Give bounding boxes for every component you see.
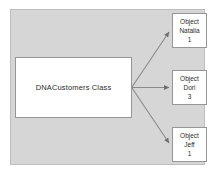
object-id-label: 1 — [188, 149, 192, 158]
class-node[interactable]: DNACustomers Class — [15, 57, 132, 118]
object-node-jeff[interactable]: Object Jeff 1 — [172, 127, 207, 162]
object-node-dori[interactable]: Object Dori 3 — [172, 70, 207, 105]
object-kind-label: Object — [180, 17, 199, 26]
object-name-label: Dori — [184, 83, 196, 92]
object-node-natalia[interactable]: Object Natalia 1 — [172, 13, 207, 48]
object-id-label: 1 — [188, 35, 192, 44]
object-kind-label: Object — [180, 131, 199, 140]
object-name-label: Jeff — [184, 140, 194, 149]
class-node-label: DNACustomers Class — [36, 83, 112, 93]
object-id-label: 3 — [188, 92, 192, 101]
object-kind-label: Object — [180, 74, 199, 83]
object-name-label: Natalia — [179, 26, 199, 35]
diagram-canvas: DNACustomers Class Object Natalia 1 Obje… — [0, 0, 217, 176]
